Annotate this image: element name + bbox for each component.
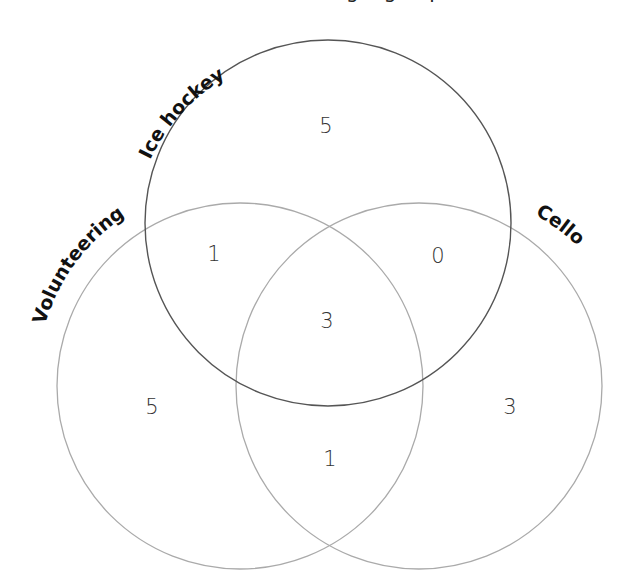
circle-cello [236, 203, 602, 569]
count-ice-hockey-cello: 0 [431, 244, 444, 268]
count-volunteering-cello: 1 [323, 447, 336, 471]
label-ice-hockey: Ice hockey [134, 62, 228, 162]
count-ice-hockey-only: 5 [319, 114, 332, 138]
count-ice-hockey-volunteering: 1 [207, 242, 220, 266]
diagram-title: Hobbies among a group [202, 0, 442, 3]
venn-diagram: Hobbies among a group Ice hockey Volunte… [0, 0, 621, 588]
count-all-three: 3 [320, 309, 333, 333]
count-cello-only: 3 [503, 395, 516, 419]
label-volunteering: Volunteering [28, 201, 128, 326]
count-volunteering-only: 5 [145, 395, 158, 419]
circle-volunteering [57, 203, 423, 569]
label-cello: Cello [533, 199, 590, 249]
